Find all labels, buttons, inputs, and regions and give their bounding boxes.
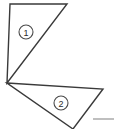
figure-container: 1 2 [0,0,114,129]
label-one-text: 1 [23,28,28,38]
triangle-one-shape [7,4,67,83]
label-two-text: 2 [58,99,63,109]
geometry-figure-svg: 1 2 [0,0,114,129]
